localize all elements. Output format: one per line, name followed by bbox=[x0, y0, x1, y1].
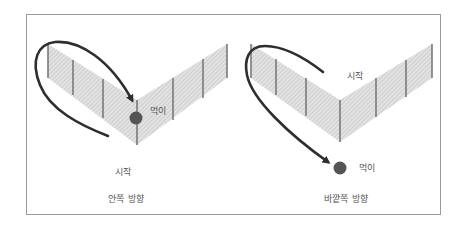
prey-dot-inward bbox=[130, 112, 143, 125]
start-label-inward: 시작 bbox=[115, 165, 132, 178]
prey-dot-outward bbox=[334, 162, 347, 175]
caption-inward: 안쪽 방향 bbox=[108, 192, 144, 205]
start-label-outward: 시작 bbox=[347, 69, 364, 82]
fence-wall-left bbox=[251, 44, 340, 142]
fence-wall-right bbox=[137, 44, 227, 145]
panel-inward bbox=[36, 42, 227, 145]
fence-diagram bbox=[0, 0, 465, 234]
panel-outward bbox=[246, 44, 432, 175]
prey-label-outward: 먹이 bbox=[359, 161, 376, 174]
prey-label-inward: 먹이 bbox=[150, 104, 167, 117]
caption-outward: 바깥쪽 방향 bbox=[324, 192, 369, 205]
fence-wall-right bbox=[340, 44, 432, 142]
